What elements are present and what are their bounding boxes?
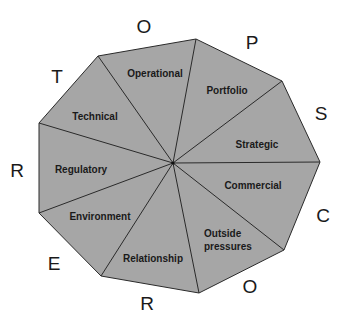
letter-p: P — [246, 32, 259, 53]
segment-relationship: Relationship — [123, 253, 183, 264]
segment-operational: Operational — [127, 68, 183, 79]
segment-technical: Technical — [72, 111, 118, 122]
letter-o-bottom: O — [243, 276, 258, 297]
letter-o-top: O — [137, 16, 152, 37]
letter-t: T — [51, 66, 63, 87]
segment-commercial: Commercial — [224, 180, 281, 191]
letter-r-bottom: R — [140, 293, 154, 314]
letter-e: E — [48, 253, 61, 274]
segment-portfolio: Portfolio — [206, 85, 247, 96]
portfolio-risk-diagram: Operational Portfolio Strategic Commerci… — [0, 0, 342, 323]
letter-r-left: R — [10, 160, 24, 181]
segment-regulatory: Regulatory — [55, 164, 108, 175]
letter-s: S — [315, 103, 328, 124]
segment-outside-pressures-line2: pressures — [204, 241, 252, 252]
segment-outside-pressures-line1: Outside — [204, 228, 242, 239]
segment-strategic: Strategic — [236, 139, 279, 150]
center-point — [171, 161, 174, 164]
segment-environment: Environment — [69, 211, 131, 222]
letter-c: C — [316, 205, 330, 226]
